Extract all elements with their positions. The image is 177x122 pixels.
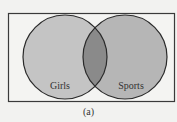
girls-label: Girls	[50, 80, 70, 91]
sports-label: Sports	[118, 80, 144, 91]
venn-diagram: Girls Sports	[0, 0, 177, 122]
figure-caption: (a)	[0, 106, 177, 117]
